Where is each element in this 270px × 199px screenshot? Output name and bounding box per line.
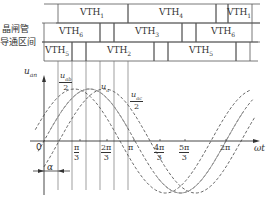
conduction-segment-label: VTH6 bbox=[211, 26, 235, 38]
x-tick-label: 5π3 bbox=[179, 143, 189, 162]
left-label-line2: 导通区间 bbox=[0, 35, 36, 48]
y-axis-label: uan bbox=[24, 66, 37, 78]
conduction-segment-label: VTH5 bbox=[189, 45, 213, 57]
x-tick-label: 2π bbox=[220, 143, 230, 152]
origin-label: 0 bbox=[36, 142, 42, 152]
conduction-segment-label: VTH5 bbox=[45, 45, 69, 57]
conduction-segment-label: VTH2 bbox=[107, 45, 131, 57]
x-tick-label: 4π3 bbox=[154, 143, 164, 162]
x-axis-label: ωt bbox=[254, 143, 265, 153]
uac-half-label: uac 2 bbox=[130, 90, 143, 111]
alpha-arrow-left-icon bbox=[38, 169, 44, 173]
conduction-segment-label: VTH4 bbox=[159, 7, 183, 19]
x-tick-label: π3 bbox=[74, 143, 79, 162]
x-tick-label: π bbox=[128, 143, 133, 152]
conduction-segment-label: VTH1 bbox=[227, 7, 251, 19]
conduction-segment-label: VTH3 bbox=[135, 26, 159, 38]
alpha-label: α bbox=[47, 162, 53, 172]
x-tick-label: 2π3 bbox=[101, 143, 111, 162]
y-axis-arrow-icon bbox=[42, 75, 46, 82]
ua-label: ua bbox=[101, 82, 109, 93]
conduction-segment-label: VTH6 bbox=[59, 26, 83, 38]
uab-half-label: uab 2 bbox=[59, 71, 72, 92]
left-label-line1: 晶闸管 bbox=[2, 22, 29, 35]
alpha-arrow-right-icon bbox=[58, 169, 64, 173]
conduction-segment-label: VTH1 bbox=[80, 7, 104, 19]
